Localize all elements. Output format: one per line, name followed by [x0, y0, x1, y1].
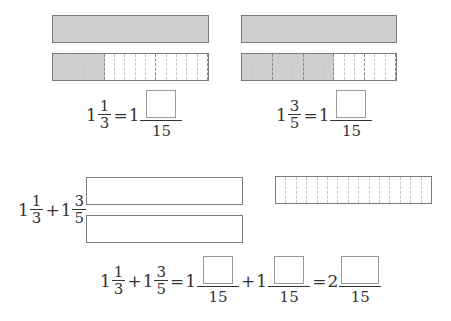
- numerator-answer-box[interactable]: [341, 256, 379, 284]
- empty-bar-1[interactable]: [86, 177, 243, 205]
- result-fraction-bar[interactable]: [275, 176, 432, 204]
- left-equation: 1 1 3 = 1 15: [86, 90, 183, 139]
- equals-sign: =: [170, 271, 184, 291]
- whole-number: 1: [319, 105, 330, 125]
- plus-sign: +: [45, 200, 59, 220]
- bar-segment: [328, 177, 338, 203]
- bar-segment: [324, 54, 334, 80]
- right-fraction-bar: [241, 53, 397, 81]
- answer-fraction: 15: [268, 256, 310, 305]
- bar-segment: [365, 54, 375, 80]
- bar-segment: [146, 54, 156, 80]
- bar-segment: [187, 54, 197, 80]
- bar-segment: [307, 177, 317, 203]
- bar-segment: [297, 177, 307, 203]
- plus-sign: +: [241, 271, 255, 291]
- bar-segment: [345, 54, 355, 80]
- bar-segment: [375, 54, 385, 80]
- bar-segment: [286, 177, 296, 203]
- bar-segment: [276, 177, 286, 203]
- sum-expression: 1 1 3 + 1 3 5: [18, 193, 87, 226]
- bar-segment: [338, 177, 348, 203]
- answer-fraction: 15: [140, 90, 182, 139]
- final-equation: 1 1 3 + 1 3 5 = 1 15 + 1 15 = 2 15: [100, 256, 382, 305]
- whole-number: 1: [129, 105, 140, 125]
- right-whole-bar: [241, 15, 397, 43]
- bar-segment: [401, 177, 411, 203]
- numerator-answer-box[interactable]: [203, 256, 233, 284]
- bar-segment: [125, 54, 135, 80]
- fraction: 1 3: [98, 98, 112, 131]
- bar-segment: [94, 54, 104, 80]
- fraction: 3 5: [288, 98, 302, 131]
- bar-segment: [283, 54, 293, 80]
- bar-segment: [359, 177, 369, 203]
- bar-segment: [386, 54, 396, 80]
- bar-segment: [370, 177, 380, 203]
- equals-sign: =: [312, 271, 326, 291]
- bar-segment: [273, 54, 283, 80]
- bar-segment: [349, 177, 359, 203]
- bar-segment: [105, 54, 115, 80]
- equals-sign: =: [113, 105, 127, 125]
- bar-segment: [293, 54, 303, 80]
- bar-segment: [167, 54, 177, 80]
- empty-bar-2[interactable]: [86, 215, 243, 243]
- bar-segment: [390, 177, 400, 203]
- bar-segment: [318, 177, 328, 203]
- answer-fraction: 15: [339, 256, 381, 305]
- bar-segment: [252, 54, 262, 80]
- answer-fraction: 15: [197, 256, 239, 305]
- equals-sign: =: [303, 105, 317, 125]
- bar-segment: [177, 54, 187, 80]
- bar-segment: [263, 54, 273, 80]
- whole-number: 1: [86, 105, 97, 125]
- bar-segment: [198, 54, 208, 80]
- bar-segment: [314, 54, 324, 80]
- bar-segment: [115, 54, 125, 80]
- bar-segment: [334, 54, 344, 80]
- bar-segment: [242, 54, 252, 80]
- numerator-answer-box[interactable]: [336, 90, 366, 118]
- numerator-answer-box[interactable]: [274, 256, 304, 284]
- right-equation: 1 3 5 = 1 15: [276, 90, 373, 139]
- bar-segment: [53, 54, 63, 80]
- whole-number: 1: [276, 105, 287, 125]
- bar-segment: [84, 54, 94, 80]
- left-whole-bar: [52, 15, 209, 43]
- bar-segment: [156, 54, 166, 80]
- answer-fraction: 15: [330, 90, 372, 139]
- numerator-answer-box[interactable]: [146, 90, 176, 118]
- bar-segment: [422, 177, 431, 203]
- bar-segment: [411, 177, 421, 203]
- bar-segment: [63, 54, 73, 80]
- bar-segment: [304, 54, 314, 80]
- left-fraction-bar: [52, 53, 209, 81]
- bar-segment: [355, 54, 365, 80]
- plus-sign: +: [127, 271, 141, 291]
- bar-segment: [380, 177, 390, 203]
- bar-segment: [136, 54, 146, 80]
- bar-segment: [74, 54, 84, 80]
